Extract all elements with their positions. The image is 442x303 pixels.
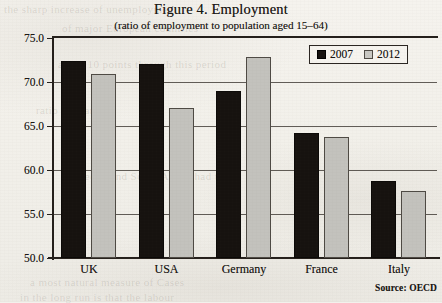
legend-item-2012: 2012 — [364, 48, 400, 60]
bar-usa-2007 — [139, 64, 164, 258]
bar-group-germany: Germany — [210, 38, 278, 258]
bar-group-france: France — [288, 38, 356, 258]
y-axis-tick — [47, 214, 53, 215]
chart-subtitle: (ratio of employment to population aged … — [0, 18, 442, 32]
bar-italy-2007 — [371, 181, 396, 258]
y-axis-tick — [47, 38, 53, 39]
bar-uk-2012 — [91, 74, 116, 258]
x-axis-label-france: France — [288, 262, 356, 277]
bar-group-uk: UK — [55, 38, 123, 258]
y-axis-label: 65.0 — [24, 120, 44, 132]
y-axis-tick — [47, 258, 53, 259]
y-axis-tick — [47, 170, 53, 171]
black-square-icon — [317, 50, 326, 59]
y-axis-label: 50.0 — [24, 252, 44, 264]
bar-usa-2012 — [169, 108, 194, 258]
y-axis-tick — [47, 82, 53, 83]
y-axis-label: 75.0 — [24, 32, 44, 44]
x-axis-label-usa: USA — [133, 262, 201, 277]
bar-group-italy: Italy — [365, 38, 433, 258]
plot-area: 75.070.065.060.055.050.0 UKUSAGermanyFra… — [52, 38, 437, 258]
x-axis-label-italy: Italy — [365, 262, 433, 277]
chart-title-block: Figure 4. Employment (ratio of employmen… — [0, 1, 442, 32]
chart-title: Figure 4. Employment — [0, 1, 442, 18]
y-axis-label: 55.0 — [24, 208, 44, 220]
bar-germany-2012 — [246, 57, 271, 258]
y-axis-tick — [47, 126, 53, 127]
gray-square-icon — [364, 50, 373, 59]
bar-germany-2007 — [216, 91, 241, 258]
x-axis-label-germany: Germany — [210, 262, 278, 277]
bar-france-2012 — [324, 137, 349, 258]
bar-france-2007 — [294, 133, 319, 258]
bar-italy-2012 — [401, 191, 426, 258]
bar-group-usa: USA — [133, 38, 201, 258]
chart-legend: 2007 2012 — [309, 45, 408, 64]
source-note: Source: OECD — [375, 283, 437, 293]
legend-label: 2012 — [377, 48, 400, 60]
y-axis-label: 70.0 — [24, 76, 44, 88]
bar-uk-2007 — [61, 61, 86, 258]
legend-item-2007: 2007 — [317, 48, 353, 60]
y-axis-label: 60.0 — [24, 164, 44, 176]
legend-label: 2007 — [330, 48, 353, 60]
gridline — [52, 258, 437, 259]
x-axis-label-uk: UK — [55, 262, 123, 277]
y-axis-line — [52, 36, 54, 260]
